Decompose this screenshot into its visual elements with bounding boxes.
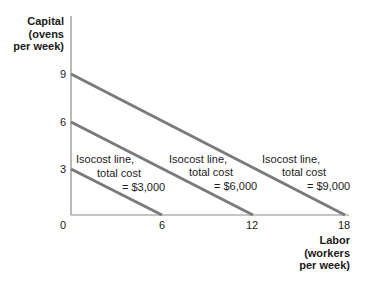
annotation-3000-line1: Isocost line, — [76, 153, 134, 166]
y-axis-label-line1: Capital — [13, 15, 64, 28]
x-tick-6: 6 — [159, 219, 165, 231]
y-tick-3: 3 — [60, 163, 66, 175]
annotation-9000-line2: total cost — [282, 166, 326, 179]
y-axis-label-line3: per week) — [13, 40, 64, 53]
x-axis-label-line1: Labor — [299, 234, 350, 247]
annotation-3000-line3: = $3,000 — [122, 181, 165, 194]
annotation-9000-line1: Isocost line, — [262, 153, 320, 166]
x-tick-12: 12 — [246, 219, 258, 231]
annotation-6000-line3: = $6,000 — [214, 180, 257, 193]
x-axis-label-line3: per week) — [299, 259, 350, 272]
x-axis-label: Labor (workers per week) — [299, 234, 350, 272]
annotation-6000-line2: total cost — [189, 166, 233, 179]
x-axis-label-line2: (workers — [299, 247, 350, 260]
annotation-6000-line1: Isocost line, — [169, 153, 227, 166]
annotation-9000-line3: = $9,000 — [307, 180, 350, 193]
annotation-3000-line2: total cost — [97, 167, 141, 180]
x-tick-18: 18 — [338, 219, 350, 231]
y-tick-9: 9 — [60, 68, 66, 80]
origin-label: 0 — [60, 219, 66, 231]
y-axis-label-line2: (ovens — [13, 28, 64, 41]
y-axis-label: Capital (ovens per week) — [13, 15, 64, 53]
y-tick-6: 6 — [60, 116, 66, 128]
